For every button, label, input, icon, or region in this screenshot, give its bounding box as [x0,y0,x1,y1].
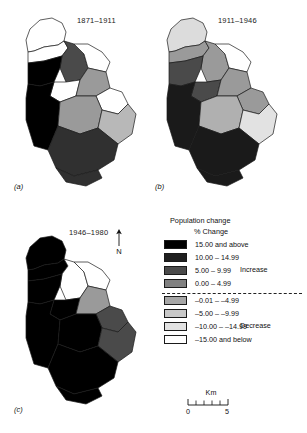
legend-row-7: –15.00 and below [164,335,307,346]
north-arrow: N [108,228,130,258]
scale-bar-unit: Km [186,388,236,397]
legend-swatch-3 [164,279,187,288]
panel-a-title: 1871–1911 [77,16,116,25]
legend-row-6: –10.00 – –14.99 [164,322,307,333]
legend-swatch-7 [164,335,187,344]
legend-label-0: 15.00 and above [195,240,249,249]
legend-swatch-1 [164,253,187,262]
north-arrow-icon [108,228,130,248]
legend-row-5: –5.00 – –9.99 [164,309,307,320]
legend-swatch-6 [164,322,187,331]
north-arrow-label: N [108,247,130,256]
map-a-svg [14,10,144,195]
map-panel-a: 1871–1911 [14,10,144,195]
panel-b-label: (b) [155,182,164,191]
legend-swatch-4 [164,296,187,305]
legend-divider [162,293,302,294]
legend-subtitle: % Change [194,227,228,236]
legend-label-7: –15.00 and below [195,335,252,344]
legend-swatch-5 [164,309,187,318]
scale-bar-max-label: 5 [225,407,229,416]
legend-row-0: 15.00 and above [164,240,307,251]
panel-c-label: (c) [14,405,23,414]
legend-label-3: 0.00 – 4.99 [195,279,231,288]
legend-label-4: –0.01 – –4.99 [195,296,239,305]
scale-bar-ruler [186,398,246,410]
legend-group-decrease: Decrease [240,321,271,330]
panel-b-title: 1911–1946 [218,16,257,25]
legend: Population change % Change 15.00 and abo… [160,216,307,336]
legend-row-3: 0.00 – 4.99 [164,279,307,290]
legend-label-1: 10.00 – 14.99 [195,253,239,262]
legend-label-2: 5.00 – 9.99 [195,266,231,275]
legend-group-increase: Increase [240,265,268,274]
figure-population-change-barbados: 1871–1911 [0,0,307,433]
legend-title: Population change [170,216,230,225]
map-b-svg [155,10,285,195]
legend-swatch-2 [164,266,187,275]
legend-row-4: –0.01 – –4.99 [164,296,307,307]
legend-swatch-0 [164,240,187,249]
panel-a-label: (a) [14,182,23,191]
panel-c-title: 1946–1980 [69,228,108,237]
legend-row-1: 10.00 – 14.99 [164,253,307,264]
scale-bar-min-label: 0 [186,407,190,416]
legend-label-5: –5.00 – –9.99 [195,309,239,318]
map-panel-b: 1911–1946 (b) [155,10,285,195]
legend-row-2: 5.00 – 9.99 [164,266,307,277]
scale-bar: Km 0 5 [186,388,250,418]
